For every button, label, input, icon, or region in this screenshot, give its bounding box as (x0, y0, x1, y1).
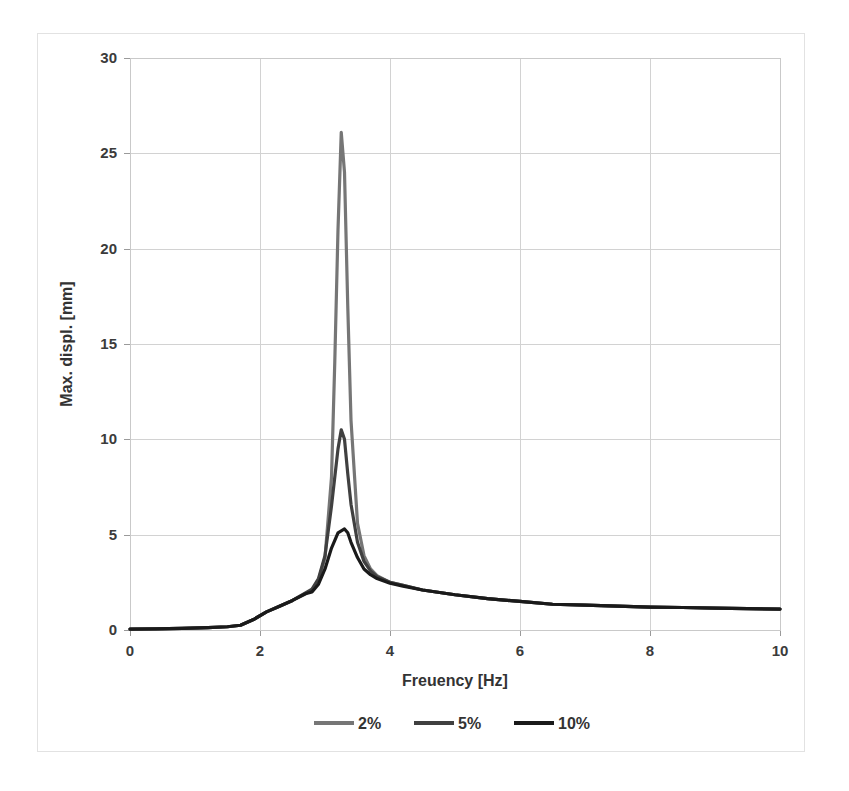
series-line-5[interactable] (130, 430, 780, 629)
line-chart[interactable]: 0246810 051015202530 Freuency [Hz] Max. … (0, 0, 849, 791)
legend-item-2[interactable]: 2% (314, 715, 381, 732)
y-axis-title: Max. displ. [mm] (58, 281, 75, 406)
legend-label: 2% (358, 715, 381, 732)
y-tick-label: 20 (100, 240, 117, 257)
axis-tickmarks (124, 59, 781, 637)
figure-canvas: 0246810 051015202530 Freuency [Hz] Max. … (0, 0, 849, 791)
x-tick-label: 0 (126, 642, 134, 659)
y-tick-label: 5 (109, 526, 117, 543)
legend-item-5[interactable]: 5% (414, 715, 481, 732)
legend-label: 5% (458, 715, 481, 732)
chart-legend[interactable]: 2%5%10% (314, 715, 590, 732)
legend-item-10[interactable]: 10% (514, 715, 590, 732)
x-tick-label: 10 (772, 642, 789, 659)
data-series-group (130, 132, 780, 629)
x-tick-labels: 0246810 (126, 642, 789, 659)
plot-svg-wrapper: 0246810 051015202530 Freuency [Hz] Max. … (0, 0, 849, 791)
x-tick-label: 2 (256, 642, 264, 659)
y-tick-label: 10 (100, 430, 117, 447)
y-tick-label: 15 (100, 335, 117, 352)
series-line-2[interactable] (130, 132, 780, 629)
x-tick-label: 6 (516, 642, 524, 659)
x-axis-title: Freuency [Hz] (402, 672, 508, 689)
x-tick-label: 8 (646, 642, 654, 659)
y-tick-label: 30 (100, 49, 117, 66)
y-tick-label: 0 (109, 621, 117, 638)
series-line-10[interactable] (130, 529, 780, 629)
y-tick-labels: 051015202530 (100, 49, 117, 638)
legend-label: 10% (558, 715, 590, 732)
x-tick-label: 4 (386, 642, 395, 659)
y-gridlines (130, 59, 780, 631)
y-tick-label: 25 (100, 144, 117, 161)
